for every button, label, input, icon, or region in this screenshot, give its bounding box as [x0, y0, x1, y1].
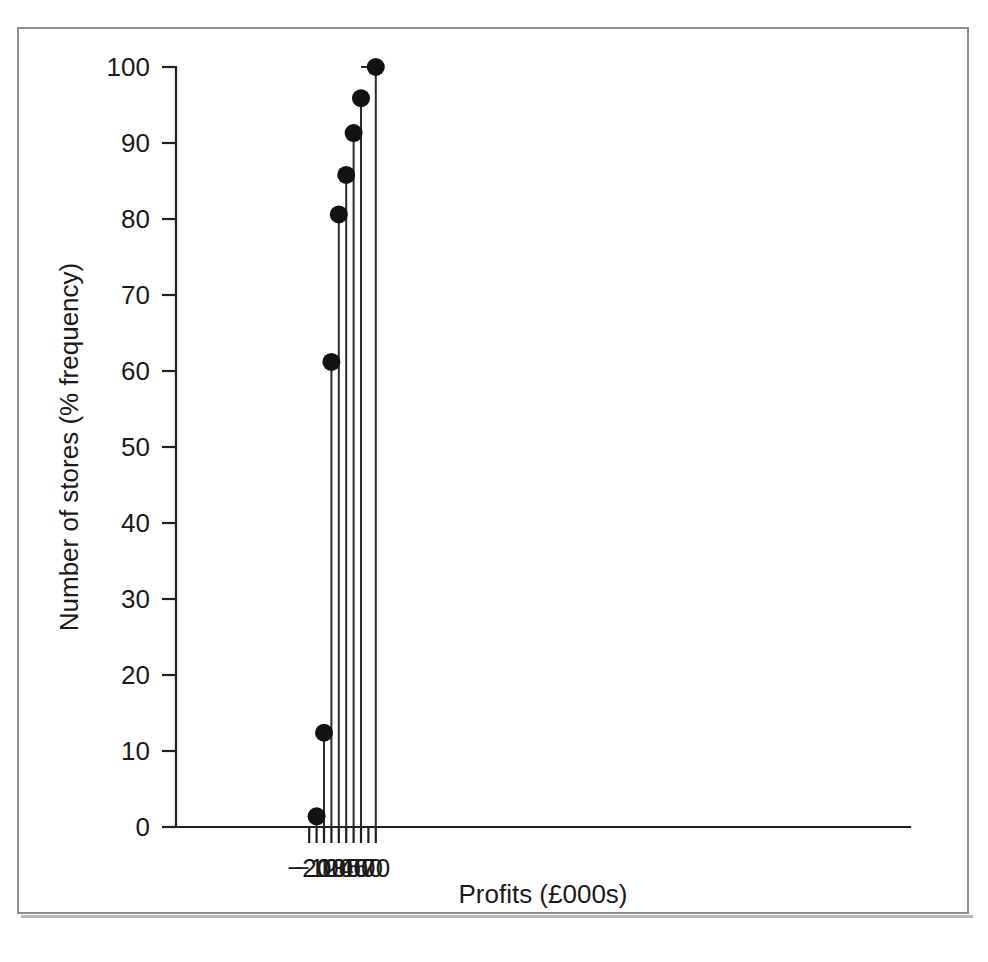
data-point-marker [337, 166, 355, 184]
y-tick-label: 20 [121, 660, 150, 690]
data-point-marker [308, 807, 326, 825]
y-tick-group [162, 67, 176, 827]
y-tick-label: 0 [136, 812, 150, 842]
data-point-marker [367, 58, 385, 76]
y-tick-label: 30 [121, 584, 150, 614]
x-tick-label-group: −20−10010203040506070 [287, 853, 390, 883]
x-tick-group [309, 827, 376, 843]
x-axis-title: Profits (£000s) [458, 879, 627, 909]
data-point-marker [352, 89, 370, 107]
data-point-marker [330, 205, 348, 223]
y-axis-title: Number of stores (% frequency) [54, 263, 84, 631]
y-tick-label: 100 [107, 52, 150, 82]
x-tick-label: 70 [361, 853, 390, 883]
y-tick-label: 70 [121, 280, 150, 310]
y-tick-label: 80 [121, 204, 150, 234]
y-tick-label: 90 [121, 128, 150, 158]
y-tick-label: 50 [121, 432, 150, 462]
y-tick-label: 10 [121, 736, 150, 766]
y-tick-label-group: 0102030405060708090100 [107, 52, 150, 842]
data-point-marker [345, 124, 363, 142]
chart-plot-area: 0102030405060708090100 −20−1001020304050… [0, 0, 988, 962]
figure-page: 0102030405060708090100 −20−1001020304050… [0, 0, 988, 962]
data-point-marker [315, 724, 333, 742]
data-point-marker [322, 353, 340, 371]
step-chart-svg: 0102030405060708090100 −20−1001020304050… [0, 0, 988, 962]
y-tick-label: 40 [121, 508, 150, 538]
axes-group [176, 67, 910, 827]
y-tick-label: 60 [121, 356, 150, 386]
